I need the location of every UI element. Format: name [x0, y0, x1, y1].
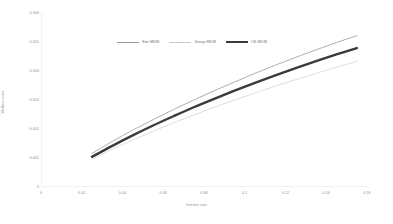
- x-tick-label: 0.14: [323, 191, 330, 195]
- legend-swatch-sim-mdm-icon: [117, 42, 139, 43]
- x-axis-title: Interest rate: [0, 203, 393, 207]
- x-tick-label: 0.06: [160, 191, 167, 195]
- y-tick-label: 0.003: [30, 98, 40, 102]
- y-tick-label: 0.004: [30, 69, 40, 73]
- y-tick-label: 0.002: [30, 127, 40, 131]
- legend-item-sim-mdm[interactable]: Sim MDM: [117, 40, 159, 44]
- y-tick-label: 0.001: [30, 156, 40, 160]
- x-tick-label: 0.1: [242, 191, 247, 195]
- chart-legend: Sim MDM Group MDM CE MDM: [117, 40, 267, 44]
- x-tick-label: 0: [40, 191, 42, 195]
- legend-label-group-mdm: Group MDM: [194, 40, 216, 44]
- legend-item-ce-mdm[interactable]: CE MDM: [226, 40, 267, 44]
- legend-label-sim-mdm: Sim MDM: [142, 40, 159, 44]
- legend-swatch-group-mdm-icon: [169, 42, 191, 43]
- y-tick-label: 0.006: [30, 11, 40, 15]
- x-tick-label: 0.02: [78, 191, 85, 195]
- legend-item-group-mdm[interactable]: Group MDM: [169, 40, 216, 44]
- y-axis-title: Welfare costs: [1, 90, 5, 113]
- y-tick-label: 0: [37, 185, 39, 189]
- y-tick-label: 0.005: [30, 40, 40, 44]
- x-tick-label: 0.04: [119, 191, 126, 195]
- x-tick-label: 0.12: [282, 191, 289, 195]
- legend-label-ce-mdm: CE MDM: [251, 40, 267, 44]
- legend-swatch-ce-mdm-icon: [226, 41, 248, 43]
- x-tick-label: 0.16: [363, 191, 370, 195]
- series-line-group-mdm: [92, 61, 357, 159]
- chart-container: Welfare costs 00.0010.0020.0030.0040.005…: [0, 0, 393, 224]
- x-tick-label: 0.08: [200, 191, 207, 195]
